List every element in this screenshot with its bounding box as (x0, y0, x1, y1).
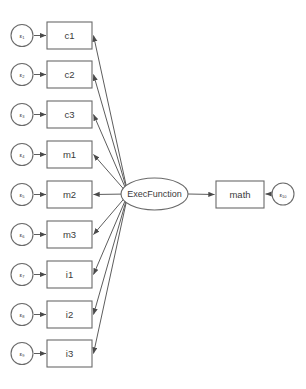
indicator-label-m2: m2 (63, 189, 76, 200)
indicator-label-i1: i1 (66, 269, 73, 280)
loading-path-i2 (94, 194, 129, 315)
loading-path-c1 (94, 36, 129, 195)
outcome-label-math: math (229, 189, 250, 200)
loading-path-c2 (94, 75, 129, 195)
indicator-label-i3: i3 (66, 348, 73, 359)
loading-path-c3 (94, 115, 129, 195)
indicator-label-m3: m3 (63, 229, 76, 240)
loading-path-i3 (94, 194, 129, 354)
loading-path-i1 (94, 194, 129, 275)
latent-label-exec-function: ExecFunction (127, 189, 182, 199)
indicator-label-m1: m1 (63, 149, 76, 160)
indicator-label-c3: c3 (64, 109, 74, 120)
diagram-canvas: c1ε1c2ε2c3ε3m1ε4m2ε5m3ε6i1ε7i2ε8i3ε9Exec… (0, 0, 306, 389)
indicator-label-c1: c1 (64, 30, 74, 41)
indicator-label-i2: i2 (66, 309, 73, 320)
sem-path-diagram: c1ε1c2ε2c3ε3m1ε4m2ε5m3ε6i1ε7i2ε8i3ε9Exec… (0, 0, 306, 389)
structural-path-exec-to-math (188, 194, 215, 195)
indicator-label-c2: c2 (64, 69, 74, 80)
